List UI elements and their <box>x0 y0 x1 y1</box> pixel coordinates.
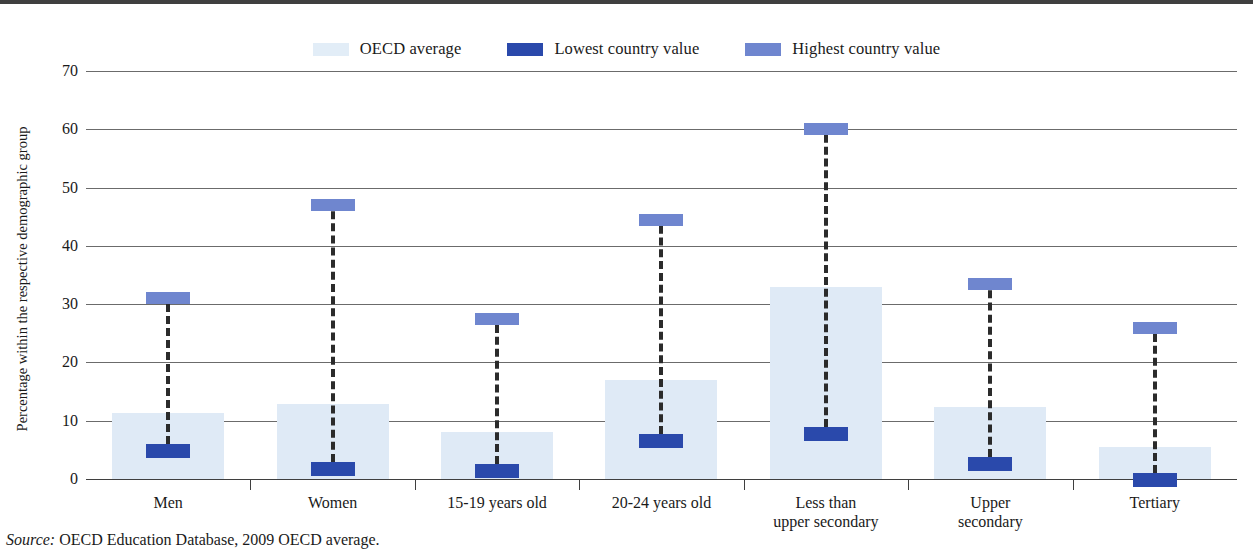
range-whisker <box>331 199 335 461</box>
legend-swatch-oecd-average-icon <box>313 43 349 56</box>
y-axis-tick-30: 30 <box>62 295 78 313</box>
range-whisker <box>495 313 499 465</box>
x-axis-tick <box>415 479 416 490</box>
marker-highest-country-value <box>1133 322 1177 334</box>
chart-group <box>579 71 743 479</box>
y-axis-tick-20: 20 <box>62 353 78 371</box>
y-axis-title: Percentage within the respective demogra… <box>14 79 31 479</box>
marker-lowest-country-value <box>639 434 683 448</box>
x-axis-tick <box>744 479 745 490</box>
legend-item-oecd-average: OECD average <box>313 39 462 59</box>
range-whisker <box>824 123 828 426</box>
marker-highest-country-value <box>639 214 683 226</box>
x-axis-tick <box>579 479 580 490</box>
legend-label-lowest-country-value: Lowest country value <box>554 39 699 59</box>
chart-group <box>908 71 1072 479</box>
marker-lowest-country-value <box>968 457 1012 471</box>
marker-lowest-country-value <box>311 462 355 476</box>
marker-highest-country-value <box>804 123 848 135</box>
y-axis-tick-40: 40 <box>62 237 78 255</box>
range-whisker <box>166 292 170 444</box>
x-axis-baseline <box>86 479 1237 480</box>
range-whisker <box>659 214 663 434</box>
plot-area: 706050403020100 <box>86 71 1237 479</box>
legend-label-highest-country-value: Highest country value <box>792 39 940 59</box>
marker-lowest-country-value <box>804 427 848 441</box>
x-axis-tick <box>1073 479 1074 490</box>
y-axis-tick-50: 50 <box>62 179 78 197</box>
chart-group <box>744 71 908 479</box>
x-axis-tick <box>908 479 909 490</box>
marker-highest-country-value <box>968 278 1012 290</box>
chart-group <box>250 71 414 479</box>
chart-group <box>1073 71 1237 479</box>
legend-label-oecd-average: OECD average <box>360 39 462 59</box>
range-whisker <box>1153 322 1157 474</box>
x-axis-label-line: secondary <box>875 512 1105 531</box>
x-axis-label: Tertiary <box>1040 493 1253 512</box>
legend-swatch-highest-country-value-icon <box>745 43 781 56</box>
top-rule-divider <box>0 0 1253 4</box>
y-axis-tick-10: 10 <box>62 412 78 430</box>
source-prefix: Source: <box>6 531 55 548</box>
y-axis-tick-70: 70 <box>62 62 78 80</box>
range-whisker <box>988 278 992 457</box>
y-axis-tick-0: 0 <box>70 470 78 488</box>
x-axis-label-line: Tertiary <box>1040 493 1253 512</box>
chart-root: OECD average Lowest country value Highes… <box>0 0 1253 557</box>
marker-lowest-country-value <box>475 464 519 478</box>
y-axis-tick-60: 60 <box>62 120 78 138</box>
marker-highest-country-value <box>311 199 355 211</box>
marker-lowest-country-value <box>1133 473 1177 487</box>
legend-item-lowest-country-value: Lowest country value <box>507 39 699 59</box>
marker-highest-country-value <box>475 313 519 325</box>
marker-highest-country-value <box>146 292 190 304</box>
chart-legend: OECD average Lowest country value Highes… <box>0 38 1253 60</box>
source-text: OECD Education Database, 2009 OECD avera… <box>55 531 379 548</box>
x-axis-tick <box>250 479 251 490</box>
source-note: Source: OECD Education Database, 2009 OE… <box>6 531 380 549</box>
chart-group <box>86 71 250 479</box>
marker-lowest-country-value <box>146 444 190 458</box>
legend-swatch-lowest-country-value-icon <box>507 43 543 56</box>
legend-item-highest-country-value: Highest country value <box>745 39 940 59</box>
chart-group <box>415 71 579 479</box>
